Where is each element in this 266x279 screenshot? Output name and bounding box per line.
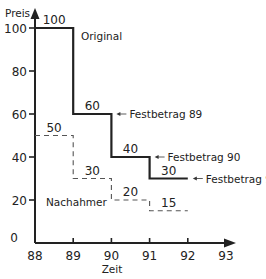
x-tick-label: 91 [142,249,157,263]
y-tick-label: 80 [12,65,27,79]
annotation-nachahmer: Nachahmer [46,196,107,208]
annotation-festbetrag: Festbetrag 90 [168,151,241,163]
x-axis-arrow-icon [224,239,236,248]
series-line-original [35,28,188,179]
value-label: 100 [43,13,66,27]
y-axis-title: Preis [5,7,30,19]
ticks: 888990919293020406080100 [4,22,234,264]
annotation-festbetrag: Festbetrag 89 [129,108,202,120]
y-tick-label: 20 [12,194,27,208]
annotation-arrowhead-icon [155,155,159,159]
x-tick-label: 88 [27,249,42,263]
x-tick-label: 90 [104,249,119,263]
x-tick-label: 92 [180,249,195,263]
y-tick-label: 60 [12,108,27,122]
value-label: 15 [161,196,176,210]
axes: Preis Zeit [5,7,236,275]
value-label: 50 [46,121,61,135]
value-label: 20 [123,185,138,199]
y-tick-label: 40 [12,151,27,165]
y-tick-label: 0 [10,231,18,245]
price-step-chart: Preis Zeit 888990919293020406080100 1006… [0,0,266,279]
annotations: Original Nachahmer Festbetrag 89Festbetr… [46,30,266,208]
x-tick-label: 93 [218,249,233,263]
value-label: 30 [161,164,176,178]
annotation-festbetrag: Festbetrag 91 [206,173,266,185]
y-axis-arrow-icon [31,8,40,19]
annotation-arrowhead-icon [193,177,197,181]
value-label: 30 [85,164,100,178]
y-tick-label: 100 [4,22,27,36]
x-axis-title: Zeit [102,263,123,275]
value-label: 40 [123,142,138,156]
value-label: 60 [85,99,100,113]
annotation-original: Original [81,30,122,42]
x-tick-label: 89 [66,249,81,263]
annotation-arrowhead-icon [116,112,120,116]
